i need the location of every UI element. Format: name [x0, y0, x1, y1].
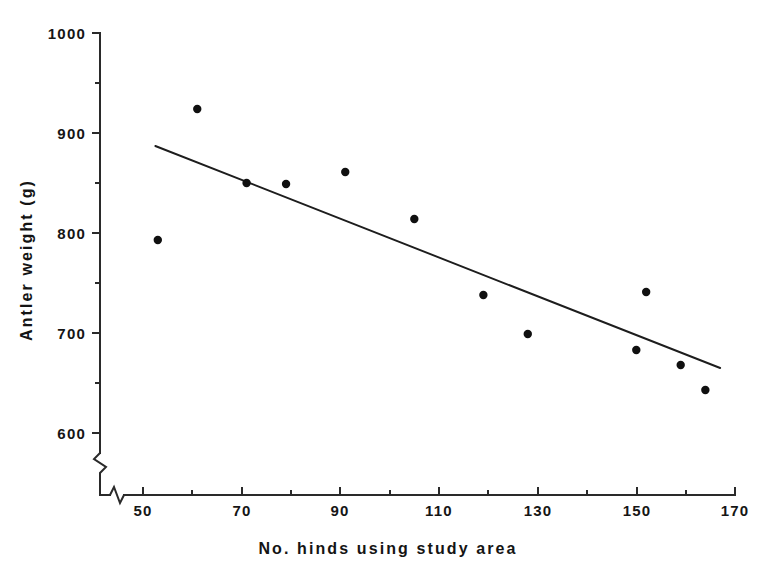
regression-line-layer	[155, 146, 720, 368]
chart-figure: 1000 900 800 700 600 Antler weight (g)	[0, 0, 780, 571]
y-tick-label-800: 800	[57, 225, 86, 242]
data-point	[341, 168, 349, 176]
y-axis-title: Antler weight (g)	[18, 179, 35, 341]
x-tick-label-130: 130	[524, 502, 553, 519]
x-axis-break-icon	[110, 487, 124, 503]
regression-line	[155, 146, 720, 368]
y-axis: 1000 900 800 700 600 Antler weight (g)	[18, 25, 106, 495]
scatter-plot: 1000 900 800 700 600 Antler weight (g)	[0, 0, 780, 571]
x-tick-label-150: 150	[623, 502, 652, 519]
x-tick-label-170: 170	[721, 502, 750, 519]
x-tick-label-50: 50	[133, 502, 152, 519]
data-point	[524, 330, 532, 338]
y-tick-label-700: 700	[57, 325, 86, 342]
x-tick-label-110: 110	[425, 502, 453, 519]
data-point	[676, 361, 684, 369]
x-axis: 50 70 90 110 130 150 170 No. hinds using…	[100, 487, 749, 557]
data-point	[479, 291, 487, 299]
data-point	[154, 236, 162, 244]
y-tick-label-900: 900	[57, 125, 86, 142]
data-point	[193, 105, 201, 113]
x-tick-label-70: 70	[232, 502, 251, 519]
data-point	[632, 346, 640, 354]
data-point	[701, 386, 709, 394]
data-point	[282, 180, 290, 188]
y-tick-label-1000: 1000	[48, 25, 86, 42]
y-tick-label-600: 600	[57, 425, 86, 442]
data-points-layer	[154, 105, 710, 394]
data-point	[410, 215, 418, 223]
x-tick-label-90: 90	[330, 502, 349, 519]
y-axis-break-icon	[94, 453, 106, 495]
data-point	[242, 179, 250, 187]
x-axis-title: No. hinds using study area	[258, 540, 517, 557]
data-point	[642, 288, 650, 296]
